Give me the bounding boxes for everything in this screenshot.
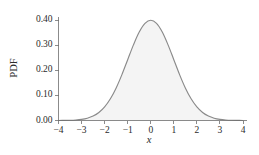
x-tick-label: −4 — [53, 126, 63, 136]
x-tick-label: 1 — [171, 126, 176, 136]
y-axis-ticks — [55, 20, 59, 121]
x-tick-label: −3 — [77, 126, 87, 136]
x-tick-label: 2 — [195, 126, 200, 136]
x-tick-label: 4 — [241, 126, 246, 136]
x-axis-title: x — [146, 134, 152, 145]
x-axis-ticks — [59, 121, 244, 125]
x-tick-label: 3 — [218, 126, 223, 136]
y-tick-label: 0.30 — [36, 40, 53, 50]
y-tick-label: 0.20 — [36, 66, 53, 76]
x-tick-label: −2 — [100, 126, 110, 136]
y-axis-title: PDF — [8, 58, 19, 77]
normal-pdf-chart: PDF x −4−3−2−101234 0.000.100.200.300.40 — [0, 0, 259, 155]
y-tick-label: 0.40 — [36, 15, 53, 25]
x-tick-label: 0 — [148, 126, 153, 136]
x-tick-label: −1 — [123, 126, 133, 136]
curve-fill-area — [59, 20, 244, 120]
y-tick-label: 0.10 — [36, 91, 53, 101]
y-tick-label: 0.00 — [36, 116, 53, 126]
